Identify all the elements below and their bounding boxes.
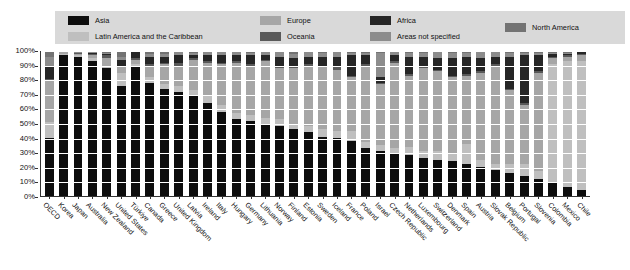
y-axis-tick-label: 80% <box>1 76 35 84</box>
bar-segment <box>145 66 154 78</box>
bar-segment <box>203 96 212 103</box>
x-label-slot: Canada <box>142 199 156 269</box>
legend-item[interactable]: North America <box>505 19 579 35</box>
bar-segment <box>275 119 284 126</box>
bar-segment <box>448 58 457 75</box>
x-label-slot: Portugal <box>517 199 531 269</box>
gridline <box>41 95 590 96</box>
bar-segment <box>232 119 241 196</box>
x-axis-category-label: Italy <box>215 201 230 216</box>
legend-swatch-icon <box>68 16 89 25</box>
x-label-slot: Germany <box>243 199 257 269</box>
legend-column: EuropeOceania <box>260 12 315 45</box>
bar-segment <box>289 68 298 123</box>
chart-legend: AsiaLatin America and the CaribbeanEurop… <box>55 11 625 44</box>
legend-label: Africa <box>397 16 416 25</box>
bar-segment <box>217 105 226 112</box>
y-axis-tick-label: 70% <box>1 91 35 99</box>
bar-segment <box>189 60 198 90</box>
bar-segment <box>160 89 169 196</box>
bar-segment <box>433 58 442 70</box>
bar-segment <box>318 67 327 129</box>
bar-segment <box>217 55 226 62</box>
legend-swatch-icon <box>260 32 281 41</box>
x-axis-category-label: Chile <box>575 201 592 218</box>
x-label-slot: New Zealand <box>99 199 113 269</box>
gridline <box>41 182 590 183</box>
legend-item[interactable]: Africa <box>370 12 460 28</box>
y-axis-tick-label: 100% <box>1 47 35 55</box>
bar-segment <box>174 55 183 62</box>
y-axis-tick-label: 30% <box>1 149 35 157</box>
legend-column: AsiaLatin America and the Caribbean <box>68 12 203 45</box>
y-axis-tick-mark <box>35 124 38 125</box>
bar-segment <box>275 68 284 119</box>
x-label-slot: Austria <box>474 199 488 269</box>
bar-segment <box>102 68 111 196</box>
y-axis-tick-mark <box>35 95 38 96</box>
bar-segment <box>246 66 255 115</box>
x-label-slot: Spain <box>459 199 473 269</box>
bar-segment <box>534 179 543 196</box>
bar-segment <box>174 66 183 86</box>
legend-swatch-icon <box>505 23 526 32</box>
bar-segment <box>520 176 529 196</box>
y-axis-tick-mark <box>35 66 38 67</box>
x-label-slot: OECD <box>41 199 55 269</box>
bar-segment <box>361 148 370 196</box>
x-label-slot: Switzerland <box>430 199 444 269</box>
bar-segment <box>534 73 543 172</box>
x-label-slot: France <box>344 199 358 269</box>
bar-segment <box>45 66 54 79</box>
gridline <box>41 51 590 52</box>
bar-segment <box>189 96 198 196</box>
bar-segment <box>45 81 54 122</box>
legend-swatch-icon <box>260 16 281 25</box>
bar-segment <box>491 57 500 64</box>
bar-segment <box>333 131 342 138</box>
bar-segment <box>333 70 342 131</box>
x-label-slot: Poland <box>358 199 372 269</box>
legend-item[interactable]: Oceania <box>260 28 315 44</box>
legend-label: North America <box>532 23 579 32</box>
bar-segment <box>59 55 68 196</box>
x-label-slot: Ireland <box>200 199 214 269</box>
bar-segment <box>117 86 126 196</box>
bar-segment <box>304 132 313 196</box>
bar-segment <box>534 55 543 71</box>
legend-swatch-icon <box>370 32 391 41</box>
bar-segment <box>405 76 414 147</box>
bar-segment <box>548 183 557 196</box>
x-label-slot: Italy <box>214 199 228 269</box>
x-label-slot: Türkiye <box>128 199 142 269</box>
gridline <box>41 109 590 110</box>
y-axis-tick-label: 20% <box>1 164 35 172</box>
bar-segment <box>318 57 327 66</box>
x-label-slot: United States <box>113 199 127 269</box>
x-label-slot: Hungary <box>228 199 242 269</box>
x-label-slot: Norway <box>272 199 286 269</box>
legend-item[interactable]: Europe <box>260 12 315 28</box>
legend-label: Latin America and the Caribbean <box>95 32 203 41</box>
x-label-slot: Lithuania <box>257 199 271 269</box>
gridline <box>41 153 590 154</box>
gridline <box>41 124 590 125</box>
bar-segment <box>476 160 485 167</box>
x-label-slot: United Kingdom <box>171 199 185 269</box>
bar-segment <box>347 77 356 131</box>
x-label-slot: Australia <box>84 199 98 269</box>
legend-item[interactable]: Latin America and the Caribbean <box>68 28 203 44</box>
bar-segment <box>261 124 270 197</box>
bar-segment <box>563 187 572 196</box>
bar-segment <box>405 155 414 196</box>
x-label-slot: Netherlands <box>402 199 416 269</box>
bar-segment <box>232 63 241 114</box>
legend-item[interactable]: Asia <box>68 12 203 28</box>
gridline <box>41 139 590 140</box>
y-axis-tick-mark <box>35 109 38 110</box>
legend-item[interactable]: Areas not specified <box>370 28 460 44</box>
x-label-slot: Finland <box>286 199 300 269</box>
y-axis-tick-mark <box>35 80 38 81</box>
y-axis-tick-label: 90% <box>1 62 35 70</box>
x-label-slot: Estonia <box>301 199 315 269</box>
